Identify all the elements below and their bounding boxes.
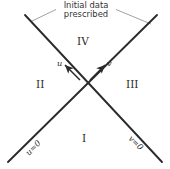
characteristic-line-nw-se (25, 15, 162, 162)
initial-data-caption: Initial data prescribed (57, 1, 115, 20)
leader-line-right (116, 10, 151, 25)
arrow-label-u: u (57, 59, 62, 68)
quadrant-label-i: I (82, 133, 86, 145)
leader-line-left (31, 10, 56, 22)
quadrant-label-iii: III (126, 79, 138, 91)
arrow-label-v: v (107, 59, 112, 68)
arrow-v (90, 65, 105, 80)
characteristic-diagram: Initial data prescribed IV II III I u v … (0, 0, 170, 169)
quadrant-label-iv: IV (77, 36, 89, 48)
quadrant-label-ii: II (36, 79, 44, 91)
caption-line-2: prescribed (57, 10, 115, 19)
